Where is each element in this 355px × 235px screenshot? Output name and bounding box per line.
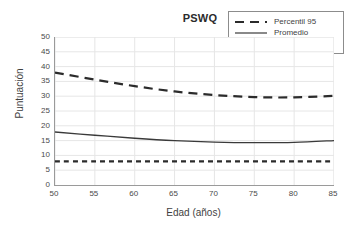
legend-label-percentil-95: Percentil 95 <box>274 16 316 27</box>
x-tick-label: 75 <box>241 190 265 198</box>
y-tick-label: 30 <box>28 92 50 100</box>
y-tick-label: 40 <box>28 63 50 71</box>
y-axis-tick-labels: 50454035302520151050 <box>26 37 50 185</box>
plot-canvas <box>55 37 334 185</box>
y-tick-label: 25 <box>28 107 50 115</box>
data-series <box>55 73 334 162</box>
legend-item-percentil-95: Percentil 95 <box>234 16 338 27</box>
x-tick-label: 55 <box>82 190 106 198</box>
series-line-0 <box>55 73 334 98</box>
x-axis-tick-labels: 5055606570758085 <box>54 190 333 202</box>
y-tick-label: 10 <box>28 151 50 159</box>
chart-figure: PSWQ Percentil 95 Promedio <box>0 0 355 235</box>
y-tick-label: 35 <box>28 77 50 85</box>
y-tick-label: 5 <box>28 166 50 174</box>
plot-area <box>54 37 334 186</box>
y-tick-label: 50 <box>28 33 50 41</box>
x-tick-label: 70 <box>201 190 225 198</box>
y-tick-label: 20 <box>28 122 50 130</box>
x-tick-label: 60 <box>122 190 146 198</box>
x-tick-label: 85 <box>321 190 345 198</box>
y-tick-label: 0 <box>28 181 50 189</box>
x-tick-label: 50 <box>42 190 66 198</box>
x-tick-label: 80 <box>281 190 305 198</box>
x-axis-label: Edad (años) <box>54 207 333 218</box>
y-axis-label: Puntuación <box>14 39 25 149</box>
gridlines <box>55 37 334 185</box>
x-tick-label: 65 <box>162 190 186 198</box>
legend-swatch-long-dash-icon <box>234 17 268 27</box>
y-tick-label: 15 <box>28 137 50 145</box>
legend-swatch-solid-icon <box>234 28 268 38</box>
y-tick-label: 45 <box>28 48 50 56</box>
